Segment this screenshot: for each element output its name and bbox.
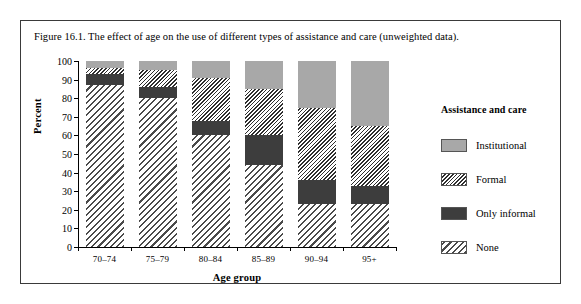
y-tick <box>74 80 78 81</box>
bar-segment-formal[interactable] <box>245 89 283 136</box>
x-tick-label: 95+ <box>362 254 377 264</box>
x-tick-label: 90–94 <box>305 254 329 264</box>
legend-items: InstitutionalFormalOnly informalNone <box>441 128 581 264</box>
legend-item-label: Institutional <box>476 140 527 151</box>
legend-item-label: Formal <box>476 174 506 185</box>
bar-segment-institutional[interactable] <box>351 61 389 126</box>
y-tick-label: 20 <box>62 204 72 215</box>
legend-item-label: Only informal <box>476 208 536 219</box>
y-tick <box>74 173 78 174</box>
bar-segment-only-informal[interactable] <box>139 87 177 98</box>
solid-dark-swatch <box>441 207 467 220</box>
y-tick-label: 10 <box>62 223 72 234</box>
x-tick-label: 80–84 <box>199 254 223 264</box>
bar-segment-institutional[interactable] <box>139 61 177 70</box>
figure-caption: Figure 16.1. The effect of age on the us… <box>34 30 544 43</box>
legend-item-label: None <box>476 242 499 253</box>
bar-segment-formal[interactable] <box>298 108 336 181</box>
y-tick-label: 0 <box>67 242 72 253</box>
legend-item[interactable]: Institutional <box>441 128 581 162</box>
stacked-bar[interactable] <box>298 61 336 247</box>
stacked-bar[interactable] <box>351 61 389 247</box>
stacked-bar[interactable] <box>192 61 230 247</box>
bar-segment-none[interactable] <box>139 98 177 247</box>
legend-item[interactable]: Only informal <box>441 196 581 230</box>
y-tick-label: 90 <box>62 74 72 85</box>
y-tick-label: 80 <box>62 93 72 104</box>
legend-title: Assistance and care <box>441 104 581 115</box>
bar-segment-institutional[interactable] <box>245 61 283 89</box>
x-tick <box>184 247 185 251</box>
legend: Assistance and care InstitutionalFormalO… <box>441 104 581 264</box>
bar-segment-formal[interactable] <box>139 70 177 87</box>
bar-segment-none[interactable] <box>298 204 336 247</box>
y-tick-label: 50 <box>62 149 72 160</box>
bar-segment-formal[interactable] <box>351 126 389 186</box>
bar-segment-institutional[interactable] <box>192 61 230 78</box>
figure-frame: Figure 16.1. The effect of age on the us… <box>20 20 561 284</box>
y-tick-label: 30 <box>62 186 72 197</box>
y-tick-label: 70 <box>62 111 72 122</box>
bar-segment-formal[interactable] <box>192 78 230 121</box>
stacked-bar[interactable] <box>86 61 124 247</box>
y-axis-line <box>78 61 79 247</box>
y-tick <box>74 117 78 118</box>
plot-area: 0102030405060708090100 70–7475–7980–8485… <box>78 61 396 247</box>
x-tick-label: 70–74 <box>93 254 117 264</box>
stacked-bar[interactable] <box>139 61 177 247</box>
y-tick <box>74 210 78 211</box>
stacked-bar[interactable] <box>245 61 283 247</box>
bar-segment-only-informal[interactable] <box>245 135 283 165</box>
fine-hatch-swatch <box>441 173 467 186</box>
solid-gray-swatch <box>441 139 467 152</box>
bar-segment-only-informal[interactable] <box>298 180 336 204</box>
x-axis-title: Age group <box>78 272 396 283</box>
y-tick <box>74 135 78 136</box>
bar-segment-none[interactable] <box>192 135 230 247</box>
y-tick-label: 40 <box>62 167 72 178</box>
bar-segment-only-informal[interactable] <box>86 74 124 85</box>
bar-segment-none[interactable] <box>86 85 124 247</box>
legend-item[interactable]: None <box>441 230 581 264</box>
y-tick <box>74 61 78 62</box>
coarse-hatch-swatch <box>441 241 467 254</box>
y-tick <box>74 98 78 99</box>
x-tick <box>78 247 79 251</box>
x-tick <box>343 247 344 251</box>
bar-segment-none[interactable] <box>245 165 283 247</box>
y-axis-title: Percent <box>32 98 43 134</box>
y-tick-label: 100 <box>57 56 72 67</box>
bar-segment-formal[interactable] <box>86 68 124 74</box>
y-tick <box>74 154 78 155</box>
legend-item[interactable]: Formal <box>441 162 581 196</box>
x-tick <box>290 247 291 251</box>
x-tick <box>237 247 238 251</box>
x-tick-label: 75–79 <box>146 254 170 264</box>
x-tick <box>396 247 397 251</box>
y-tick <box>74 191 78 192</box>
x-tick <box>131 247 132 251</box>
bar-segment-institutional[interactable] <box>298 61 336 108</box>
bar-segment-institutional[interactable] <box>86 61 124 68</box>
y-tick-label: 60 <box>62 130 72 141</box>
bar-segment-only-informal[interactable] <box>351 186 389 205</box>
y-tick <box>74 228 78 229</box>
bar-segment-none[interactable] <box>351 204 389 247</box>
x-tick-label: 85–89 <box>252 254 276 264</box>
bar-segment-only-informal[interactable] <box>192 121 230 136</box>
